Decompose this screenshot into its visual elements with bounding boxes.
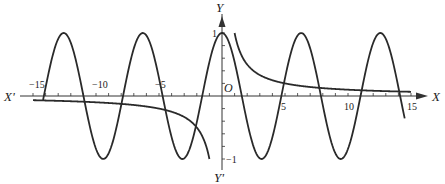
x-axis-label: X [431,89,441,104]
y-axis-negative-label: Y' [214,170,224,184]
x-tick-label: 15 [407,101,417,112]
origin-label: O [224,81,233,95]
x-tick-label: −15 [29,79,45,90]
chart-canvas: −15−10−551015 1−1 X X' Y Y' O [0,0,445,184]
x-tick-label: 10 [344,101,354,112]
y-tick-label: 1 [212,28,217,39]
y-tick-label: −1 [226,154,237,165]
y-axis-label: Y [216,0,225,15]
x-axis-negative-label: X' [3,89,15,104]
x-axis-arrow-icon [416,93,428,100]
y-axis-arrow-icon [219,16,226,27]
x-tick-label: −10 [92,79,108,90]
reciprocal-curve-positive [235,33,411,92]
x-tick-label: 5 [281,101,286,112]
